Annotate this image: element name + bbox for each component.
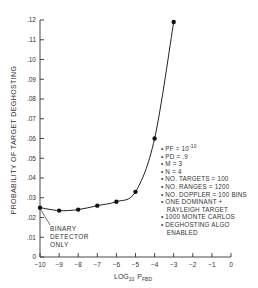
svg-text:−4: −4 xyxy=(151,261,159,268)
svg-text:.02: .02 xyxy=(27,214,36,221)
annotation-binary: BINARY xyxy=(50,225,77,232)
note-algo: • DEGHOSTING ALGO xyxy=(161,221,247,229)
svg-text:−2: −2 xyxy=(189,261,197,268)
svg-text:−6: −6 xyxy=(113,261,121,268)
svg-text:0: 0 xyxy=(32,253,36,260)
svg-text:−5: −5 xyxy=(132,261,140,268)
data-point xyxy=(38,205,42,209)
data-curve xyxy=(40,22,174,211)
svg-text:−1: −1 xyxy=(208,261,216,268)
note-dominant: • ONE DOMINANT + xyxy=(161,198,247,206)
note-pf: • PF = 10-10 xyxy=(161,143,247,153)
note-doppler: • NO. DOPPLER = 100 BINS xyxy=(161,191,247,199)
note-ranges: • NO. RANGES = 1200 xyxy=(161,183,247,191)
note-n: • N = 4 xyxy=(161,168,247,176)
parameters-notes: • PF = 10-10 • PD = .9 • M = 3 • N = 4 •… xyxy=(161,143,247,236)
svg-text:−3: −3 xyxy=(170,261,178,268)
svg-text:−10: −10 xyxy=(34,261,45,268)
data-point xyxy=(152,136,156,140)
svg-text:−8: −8 xyxy=(74,261,82,268)
note-m: • M = 3 xyxy=(161,160,247,168)
data-point xyxy=(114,200,118,204)
svg-text:.10: .10 xyxy=(27,56,36,63)
annotation-only: ONLY xyxy=(50,241,69,248)
x-axis-label: LOG10PFBD xyxy=(114,273,152,282)
note-enabled: ENABLED xyxy=(161,229,247,237)
annotation-detector: DETECTOR xyxy=(50,233,89,240)
data-points xyxy=(38,20,176,213)
svg-text:.11: .11 xyxy=(27,36,36,43)
data-point xyxy=(57,208,61,212)
note-monte: • 1000 MONTE CARLOS xyxy=(161,213,247,221)
svg-text:.09: .09 xyxy=(27,76,36,83)
data-point xyxy=(76,207,80,211)
note-rayleigh: RAYLEIGH TARGET xyxy=(161,206,247,214)
svg-text:.04: .04 xyxy=(27,174,36,181)
svg-text:.01: .01 xyxy=(27,234,36,241)
svg-text:.03: .03 xyxy=(27,194,36,201)
note-targets: • NO. TARGETS = 100 xyxy=(161,175,247,183)
svg-text:−9: −9 xyxy=(55,261,63,268)
svg-text:0: 0 xyxy=(229,261,233,268)
data-point xyxy=(172,20,176,24)
note-pd: • PD = .9 xyxy=(161,153,247,161)
svg-text:.05: .05 xyxy=(27,155,36,162)
svg-text:.07: .07 xyxy=(27,115,36,122)
data-point xyxy=(95,203,99,207)
data-point xyxy=(133,190,137,194)
svg-text:−7: −7 xyxy=(94,261,102,268)
svg-text:.06: .06 xyxy=(27,135,36,142)
svg-text:.12: .12 xyxy=(27,16,36,23)
svg-text:.08: .08 xyxy=(27,95,36,102)
y-axis-label: PROBABILITY OF TARGET DEGHOSTING xyxy=(10,66,17,215)
